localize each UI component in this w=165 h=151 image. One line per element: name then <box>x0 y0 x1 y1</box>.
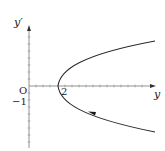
phase-plane-diagram: y′ y O −1 2 <box>0 0 165 151</box>
tick-label-minus-one: −1 <box>12 97 27 107</box>
y-axis-arrow-icon <box>27 25 31 31</box>
horizontal-axis-label: y <box>154 89 160 100</box>
origin-label: O <box>19 86 27 96</box>
trajectory-upper-branch <box>58 41 155 86</box>
vertical-axis-label: y′ <box>14 17 23 28</box>
tick-label-two: 2 <box>61 87 67 97</box>
diagram-canvas <box>0 0 165 151</box>
trajectory-lower-branch <box>58 86 155 132</box>
